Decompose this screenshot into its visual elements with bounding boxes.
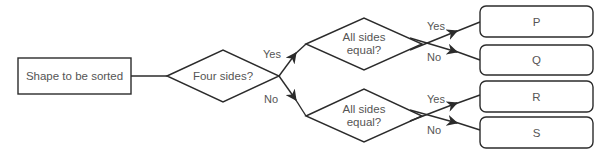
outcome-node-q: Q [480, 45, 593, 75]
outcome-node-p: P [480, 6, 593, 37]
outcome-node-s: S [480, 117, 593, 148]
connector-upper-no [455, 51, 480, 60]
edge-label-lower-no: No [427, 124, 441, 136]
decision-lower-label-line1: All sides [343, 103, 386, 115]
edge-label-main-yes: Yes [263, 48, 281, 60]
edge-label-lower-yes: Yes [427, 93, 445, 105]
decision-upper-label-line2: equal? [347, 44, 382, 56]
outcome-q-label: Q [532, 54, 541, 66]
start-node-label: Shape to be sorted [26, 70, 123, 82]
connector-main-yes [294, 44, 306, 55]
start-node: Shape to be sorted [18, 58, 131, 94]
edge-label-upper-no: No [427, 51, 441, 63]
decision-lower-all-sides-equal: All sides equal? [306, 89, 422, 142]
connector-main-no [294, 97, 306, 116]
connector-upper-yes [455, 22, 480, 32]
edge-label-main-no: No [264, 93, 278, 105]
outcome-s-label: S [533, 127, 541, 139]
decision-upper-label-line1: All sides [343, 31, 386, 43]
decision-lower-label-line2: equal? [347, 116, 382, 128]
outcome-p-label: P [533, 16, 541, 28]
flowchart-canvas: Shape to be sorted Four sides? Yes No Al… [0, 0, 606, 155]
connector-lower-no [455, 122, 480, 130]
connector-main-yes-arrow [279, 53, 296, 76]
decision-four-sides-label: Four sides? [193, 70, 253, 82]
connector-main-no-arrow [279, 76, 296, 100]
connector-lower-yes [455, 95, 480, 104]
decision-upper-all-sides-equal: All sides equal? [306, 18, 422, 70]
outcome-r-label: R [532, 91, 540, 103]
outcome-node-r: R [480, 81, 593, 112]
edge-label-upper-yes: Yes [427, 20, 445, 32]
